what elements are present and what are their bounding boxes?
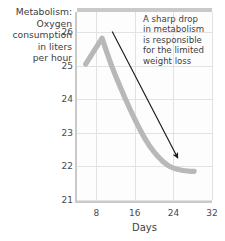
x-tick-label: 24 [168,209,179,218]
y-tick-label: 22 [62,162,73,171]
x-tick-label: 8 [93,209,99,218]
x-axis-title: Days [77,222,212,233]
y-tick-label: 21 [62,196,73,205]
x-tick-label: 32 [206,209,217,218]
x-tick-label: 16 [129,209,140,218]
chart-screenshot: Metabolism: Oxygen consumption in liters… [0,0,225,241]
y-axis-line [75,12,77,203]
y-tick-label: 24 [62,95,73,104]
y-tick-label: 23 [62,128,73,137]
annotation-callout-text: A sharp drop in metabolism is responsibl… [143,14,225,66]
y-tick-label: 26 [62,28,73,37]
y-tick-label: 25 [62,61,73,70]
gridline-vertical [96,12,97,200]
gridline-vertical [135,12,136,200]
gridline-horizontal [77,200,212,201]
